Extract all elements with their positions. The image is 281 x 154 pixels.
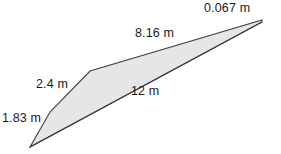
side-label-24: 2.4 m xyxy=(36,77,68,91)
side-label-12: 12 m xyxy=(131,84,159,98)
side-label-183: 1.83 m xyxy=(2,111,41,125)
side-label-0067: 0.067 m xyxy=(204,1,250,15)
geometry-figure: 0.067 m 8.16 m 2.4 m 12 m 1.83 m xyxy=(0,0,281,154)
side-label-816: 8.16 m xyxy=(135,26,174,40)
